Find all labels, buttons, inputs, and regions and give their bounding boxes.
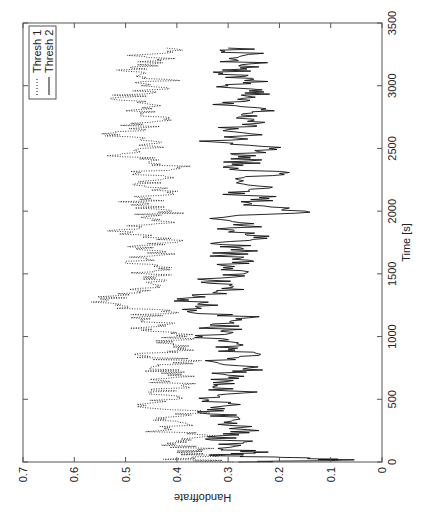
- x-tick-label: 2500: [386, 136, 398, 160]
- y-tick-label: 0.2: [273, 467, 285, 482]
- y-tick-label: 0.7: [17, 467, 29, 482]
- x-tick-label: 1000: [386, 324, 398, 348]
- plot-frame: [23, 23, 382, 462]
- y-tick-label: 0.1: [325, 467, 337, 482]
- x-tick-label: 1500: [386, 262, 398, 286]
- rotated-figure: 0500100015002000250030003500 00.10.20.30…: [0, 0, 436, 514]
- legend: Thresh 1 Thresh 2: [29, 26, 56, 99]
- x-tick-label: 3000: [386, 73, 398, 97]
- y-tick-label: 0.3: [222, 467, 234, 482]
- series-line-thresh-1: [91, 48, 233, 462]
- y-axis-label: Handoffrate: [174, 492, 231, 504]
- x-tick-label: 500: [386, 390, 398, 408]
- x-tick-label: 0: [386, 459, 398, 465]
- y-tick-label: 0.5: [120, 467, 132, 482]
- x-axis-ticks: 0500100015002000250030003500: [23, 11, 398, 465]
- x-axis-label: Time [s]: [400, 223, 412, 262]
- x-tick-label: 3500: [386, 11, 398, 35]
- x-tick-label: 2000: [386, 199, 398, 223]
- legend-label-thresh-1: Thresh 1: [31, 30, 43, 73]
- series-layer: [91, 48, 354, 462]
- y-tick-label: 0.6: [68, 467, 80, 482]
- y-tick-label: 0: [376, 467, 388, 473]
- legend-label-thresh-2: Thresh 2: [43, 30, 55, 73]
- y-tick-label: 0.4: [171, 467, 183, 482]
- line-chart: 0500100015002000250030003500 00.10.20.30…: [0, 0, 436, 514]
- series-line-thresh-2: [174, 48, 354, 462]
